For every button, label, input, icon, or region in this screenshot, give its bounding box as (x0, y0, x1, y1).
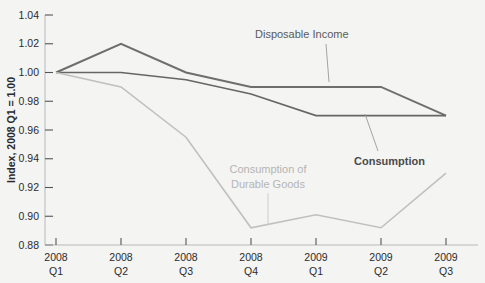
y-tick-label: 0.98 (19, 95, 40, 107)
x-tick-label: 2009 (304, 251, 328, 263)
y-tick-label: 1.04 (19, 9, 40, 21)
y-tick-label: 0.92 (19, 181, 40, 193)
x-tick-label: 2009 (369, 251, 393, 263)
x-tick-label: Q4 (244, 265, 258, 277)
y-axis-title: Index, 2008 Q1 = 1.00 (5, 77, 17, 183)
x-tick-label: 2008 (109, 251, 133, 263)
x-tick-label: 2008 (44, 251, 68, 263)
y-tick-label: 1.02 (19, 37, 40, 49)
x-tick-label: Q3 (439, 265, 453, 277)
line-chart: 0.880.900.920.940.960.981.001.021.04 200… (0, 0, 485, 283)
annotation-label-disposable-income: Disposable Income (255, 28, 349, 40)
annotation-label-consumption-durable-goods: Durable Goods (231, 178, 305, 190)
y-tick-label: 0.88 (19, 239, 40, 251)
y-tick-label: 0.96 (19, 124, 40, 136)
x-tick-label: Q3 (179, 265, 193, 277)
x-tick-label: Q2 (374, 265, 388, 277)
x-tick-label: 2008 (174, 251, 198, 263)
x-tick-label: Q1 (309, 265, 323, 277)
y-tick-label: 1.00 (19, 66, 40, 78)
x-tick-label: Q2 (114, 265, 128, 277)
chart-background (0, 0, 485, 283)
annotation-label-consumption-durable-goods: Consumption of (229, 163, 307, 175)
x-tick-label: 2008 (239, 251, 263, 263)
annotation-label-consumption: Consumption (354, 155, 425, 167)
x-tick-label: 2009 (434, 251, 458, 263)
x-tick-label: Q1 (49, 265, 63, 277)
y-tick-label: 0.94 (19, 152, 40, 164)
chart-screenshot: 0.880.900.920.940.960.981.001.021.04 200… (0, 0, 485, 283)
y-tick-label: 0.90 (19, 210, 40, 222)
